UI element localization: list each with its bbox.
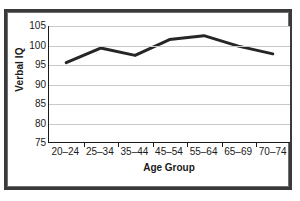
x-axis-title: Age Group: [48, 162, 290, 173]
chart-frame: Verbal IQ 1051009590858075 20–2425–3435–…: [4, 9, 292, 190]
gridline-100: [49, 46, 290, 47]
y-tick-label-95: 95: [21, 60, 46, 70]
y-tick-label-100: 100: [21, 41, 46, 51]
y-tick-label-85: 85: [21, 99, 46, 109]
y-axis-tick-labels: 1051009590858075: [21, 26, 46, 143]
plot-area: [48, 26, 290, 143]
x-axis-tick-labels: 20–2425–3435–4445–5455–6465–6970–74: [48, 146, 290, 160]
gridline-85: [49, 104, 290, 105]
x-tick-label-6: 70–74: [252, 146, 294, 158]
y-tick-label-75: 75: [21, 138, 46, 148]
y-tick-label-90: 90: [21, 80, 46, 90]
y-tick-label-80: 80: [21, 119, 46, 129]
y-tick-label-105: 105: [21, 21, 46, 31]
chart-figure: Verbal IQ 1051009590858075 20–2425–3435–…: [0, 0, 300, 201]
gridline-90: [49, 85, 290, 86]
gridline-80: [49, 124, 290, 125]
gridline-95: [49, 65, 290, 66]
gridline-105: [49, 26, 290, 27]
